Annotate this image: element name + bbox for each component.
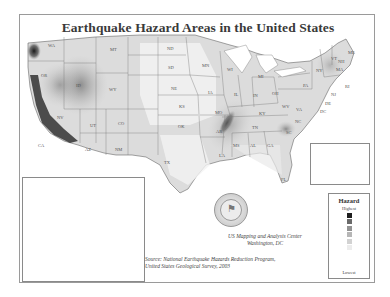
- state-label-nd: ND: [167, 46, 174, 51]
- credit-text: US Mapping and Analysis Center Washingto…: [200, 233, 330, 246]
- state-label-mo: MO: [215, 110, 222, 115]
- state-label-nm: NM: [115, 147, 122, 152]
- legend-swatches: [329, 213, 369, 251]
- state-label-mt: MT: [110, 47, 117, 52]
- state-label-ok: OK: [178, 124, 185, 129]
- state-label-ny: NY: [316, 68, 323, 73]
- state-label-ks: KS: [179, 104, 185, 109]
- alaska-inset: [22, 177, 145, 282]
- legend-high-label: Highest: [329, 206, 369, 211]
- legend-low-label: Lowest: [329, 270, 369, 275]
- state-label-pa: PA: [303, 83, 308, 88]
- legend-swatch: [347, 245, 352, 250]
- seal-inner: ⚑: [220, 199, 242, 221]
- state-label-or: OR: [41, 73, 47, 78]
- state-label-nc: NC: [295, 119, 301, 124]
- legend-swatch: [347, 219, 352, 224]
- state-label-va: VA: [296, 107, 302, 112]
- legend-swatch: [347, 239, 352, 244]
- map-frame: Earthquake Hazard Areas in the United St…: [19, 14, 375, 283]
- source-text: Source: National Earthquake Hazards Redu…: [145, 256, 325, 269]
- state-label-wy: WY: [109, 87, 117, 92]
- state-label-wa: WA: [48, 43, 55, 48]
- state-label-ma: MA: [336, 67, 343, 72]
- state-label-az: AZ: [85, 147, 91, 152]
- state-label-de: DE: [325, 101, 331, 106]
- credit-line-2: Washington, DC: [200, 240, 330, 247]
- state-label-wv: WV: [282, 104, 290, 109]
- usgs-seal: ⚑: [214, 193, 248, 227]
- state-label-id: ID: [76, 83, 81, 88]
- state-label-nv: NV: [57, 115, 64, 120]
- state-label-co: CO: [118, 121, 124, 126]
- state-label-nj: NJ: [331, 92, 336, 97]
- legend-swatch: [347, 226, 352, 231]
- state-label-tx: TX: [164, 160, 170, 165]
- state-label-ca: CA: [38, 143, 44, 148]
- state-label-wi: WI: [227, 67, 233, 72]
- state-label-vt: VT: [331, 56, 337, 61]
- state-label-dc: DC: [320, 109, 326, 114]
- state-label-oh: OH: [272, 91, 279, 96]
- state-label-al: AL: [250, 143, 256, 148]
- hazard-legend: Hazard Highest Lowest: [328, 193, 370, 279]
- state-label-mn: MN: [202, 63, 209, 68]
- eagle-icon: ⚑: [221, 203, 241, 214]
- state-label-sc: SC: [286, 130, 292, 135]
- legend-swatch: [347, 213, 352, 218]
- state-label-me: ME: [348, 50, 355, 55]
- hawaii-inset: [310, 143, 370, 185]
- state-label-la: LA: [219, 153, 225, 158]
- state-label-mi: MI: [258, 74, 264, 79]
- source-line-2: United States Geological Survey, 2003: [145, 263, 325, 270]
- state-label-in: IN: [253, 93, 258, 98]
- state-label-ms: MS: [233, 143, 240, 148]
- state-label-ia: IA: [208, 90, 213, 95]
- state-label-il: IL: [234, 92, 238, 97]
- state-label-ga: GA: [267, 143, 274, 148]
- legend-swatch: [347, 232, 352, 237]
- state-label-ar: AR: [216, 129, 222, 134]
- state-label-ne: NE: [171, 86, 177, 91]
- state-label-ri: RI: [345, 84, 350, 89]
- state-label-ut: UT: [90, 123, 96, 128]
- state-label-fl: FL: [281, 177, 286, 182]
- legend-title: Hazard: [329, 197, 369, 204]
- state-label-nh: NH: [338, 59, 345, 64]
- state-label-tn: TN: [252, 125, 258, 130]
- state-label-sd: SD: [168, 65, 174, 70]
- state-label-ky: KY: [259, 111, 266, 116]
